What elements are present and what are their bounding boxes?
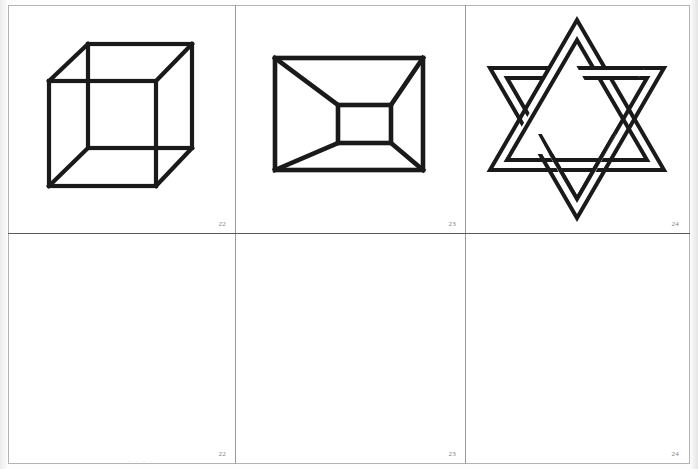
necker-cube-drawing bbox=[9, 6, 235, 233]
truncated-pyramid-drawing bbox=[236, 6, 465, 233]
figure-number: 24 bbox=[672, 220, 679, 228]
figure-number: 22 bbox=[219, 450, 226, 458]
figure-number: 23 bbox=[449, 450, 456, 458]
cell-interwoven-star[interactable]: 24 bbox=[466, 6, 689, 233]
cell-necker-cube[interactable]: 22 bbox=[9, 6, 235, 233]
cell-truncated-pyramid[interactable]: 23 bbox=[236, 6, 465, 233]
bottom-caption-strip: · · · · bbox=[8, 460, 690, 469]
figure-number: 24 bbox=[672, 450, 679, 458]
cell-blank-2[interactable]: 23 bbox=[236, 234, 465, 463]
figure-number: 23 bbox=[449, 220, 456, 228]
figure-number: 22 bbox=[219, 220, 226, 228]
right-page-edge-shadow bbox=[690, 0, 698, 469]
cell-blank-1[interactable]: 22 bbox=[9, 234, 235, 463]
left-page-edge-shadow bbox=[0, 0, 8, 469]
interwoven-hexagram-drawing bbox=[466, 6, 689, 233]
bottom-caption: · · · · bbox=[128, 460, 155, 465]
cell-blank-3[interactable]: 24 bbox=[466, 234, 689, 463]
figure-plate: 22 23 bbox=[0, 0, 698, 469]
